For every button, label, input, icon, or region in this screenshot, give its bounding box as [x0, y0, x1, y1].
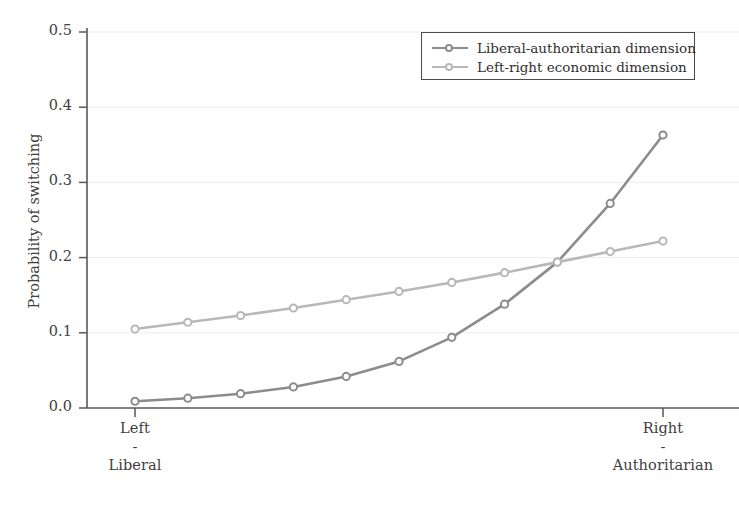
legend-dot	[445, 63, 453, 71]
chart-figure: Probability of switching 0.00.10.20.30.4…	[0, 0, 739, 509]
y-axis-tick-label: 0.2	[26, 248, 72, 264]
x-tick-right-line2: -	[588, 438, 738, 457]
legend-dot	[445, 44, 453, 52]
x-axis-tick-label-right: Right - Authoritarian	[588, 419, 738, 475]
y-axis-label: Probability of switching	[26, 101, 42, 341]
legend-marker-icon	[430, 60, 470, 74]
y-axis-tick-label: 0.1	[26, 323, 72, 339]
legend-entry: Liberal-authoritarian dimension	[430, 38, 694, 57]
y-axis-tick-label: 0.0	[26, 398, 72, 414]
y-axis-tick-label: 0.3	[26, 172, 72, 188]
axis-lines	[87, 28, 739, 408]
chart-legend: Liberal-authoritarian dimension Left-rig…	[421, 32, 695, 80]
legend-label: Liberal-authoritarian dimension	[477, 40, 696, 56]
y-axis-tick-label: 0.5	[26, 22, 72, 38]
legend-entry: Left-right economic dimension	[430, 57, 694, 76]
legend-marker-icon	[430, 41, 470, 55]
data-series-layer	[131, 131, 666, 404]
x-axis-tick-label-left: Left - Liberal	[60, 419, 210, 475]
x-tick-right-line1: Right	[588, 419, 738, 438]
x-axis-ticks	[135, 408, 663, 417]
x-tick-right-line3: Authoritarian	[588, 456, 738, 475]
y-axis-ticks	[79, 32, 87, 408]
x-tick-left-line2: -	[60, 438, 210, 457]
x-tick-left-line3: Liberal	[60, 456, 210, 475]
x-tick-left-line1: Left	[60, 419, 210, 438]
legend-label: Left-right economic dimension	[477, 59, 687, 75]
y-axis-tick-label: 0.4	[26, 97, 72, 113]
